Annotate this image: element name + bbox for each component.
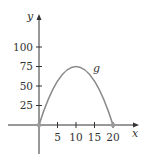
x-axis-label: x [132, 127, 139, 140]
y-tick-label: 100 [13, 41, 33, 53]
y-tick-label: 75 [20, 60, 33, 72]
y-tick-label: 25 [20, 99, 33, 111]
x-tick-label: 15 [88, 131, 101, 143]
y-axis-arrow-icon [37, 14, 42, 20]
y-axis-label: y [26, 10, 34, 23]
x-tick-label: 20 [106, 131, 119, 143]
curve-g [39, 67, 113, 126]
y-tick-label: 50 [20, 80, 33, 92]
point-origin [37, 123, 41, 127]
x-tick-label: 10 [69, 131, 82, 143]
x-tick-label: 5 [54, 131, 61, 143]
chart: x y 5 10 15 20 25 50 75 100 g [0, 0, 146, 161]
point-x20 [111, 123, 115, 127]
curve-label: g [93, 62, 100, 75]
